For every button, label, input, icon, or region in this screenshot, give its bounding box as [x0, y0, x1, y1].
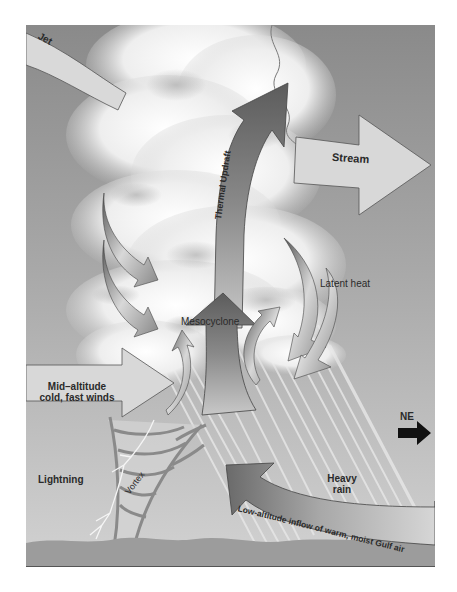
label-lightning: Lightning [38, 474, 84, 485]
label-stream: Stream [332, 151, 370, 166]
label-mid-altitude-line1: Mid–altitude [37, 381, 117, 392]
label-latent-heat: Latent heat [320, 278, 370, 289]
storm-diagram: Jet Stream Thermal Updraft Latent heat M… [26, 25, 435, 567]
label-heavy-rain: Heavy rain [322, 473, 362, 495]
label-heavy-rain-line2: rain [322, 484, 362, 495]
label-heavy-rain-line1: Heavy [322, 473, 362, 484]
label-mesocyclone: Mesocyclone [181, 316, 239, 327]
label-ne: NE [400, 411, 414, 422]
label-mid-altitude-winds: Mid–altitude cold, fast winds [37, 381, 117, 403]
label-mid-altitude-line2: cold, fast winds [37, 392, 117, 403]
diagram-illustration [26, 25, 435, 566]
